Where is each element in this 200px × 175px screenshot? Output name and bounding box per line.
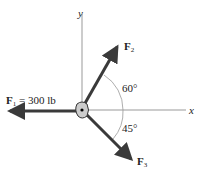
force-f3-label: F3 xyxy=(137,155,148,169)
force-f2-label: F2 xyxy=(124,40,135,54)
x-axis-label: x xyxy=(188,104,194,116)
origin-point xyxy=(80,108,83,111)
force-diagram: y x F1 = 300 lb F2 F3 60° 45° xyxy=(0,0,200,175)
force-f3-arrow xyxy=(86,114,131,159)
angle-45-label: 45° xyxy=(122,122,137,134)
angle-arc-60 xyxy=(104,75,123,110)
y-axis-label: y xyxy=(77,7,83,19)
force-f1-label: F1 = 300 lb xyxy=(6,94,56,108)
angle-60-label: 60° xyxy=(122,82,137,94)
force-f2-arrow xyxy=(84,47,117,105)
